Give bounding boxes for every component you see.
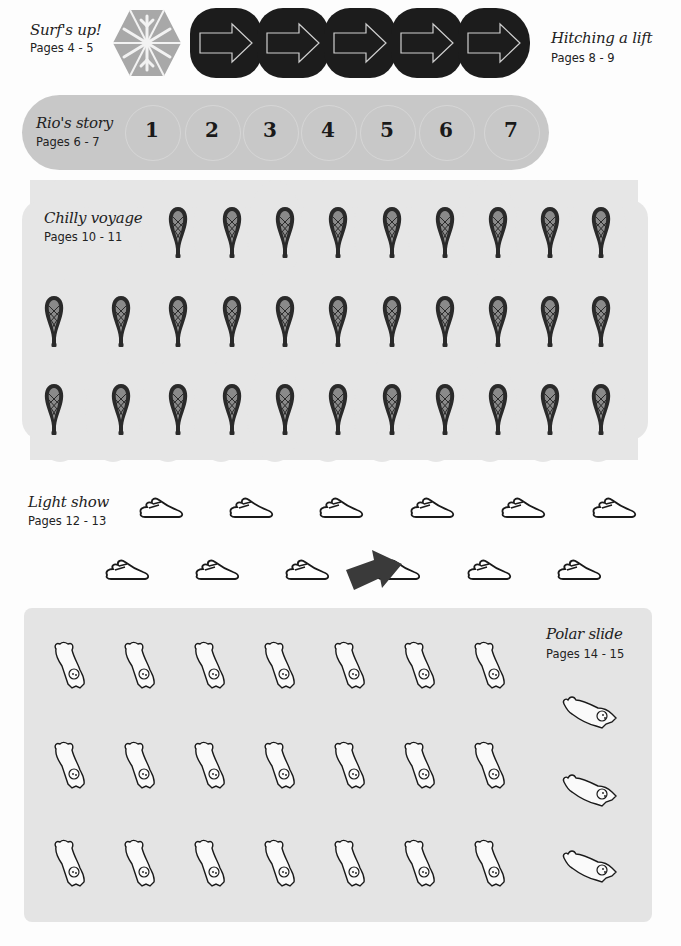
snowshoe-icon[interactable]: [434, 382, 456, 438]
footprint-icon[interactable]: [555, 557, 603, 581]
snowshoe-icon[interactable]: [43, 294, 65, 350]
surfs-up-pages: Pages 4 - 5: [30, 41, 94, 56]
polar-bear-icon[interactable]: [402, 640, 438, 692]
snowshoe-icon[interactable]: [539, 205, 561, 261]
rios-story-pages: Pages 6 - 7: [36, 135, 100, 150]
arrow-sticker[interactable]: [391, 8, 463, 78]
polar-bear-icon[interactable]: [402, 838, 438, 890]
snowshoe-icon[interactable]: [434, 205, 456, 261]
polar-bear-icon[interactable]: [192, 740, 228, 792]
polar-bear-icon[interactable]: [332, 740, 368, 792]
footprint-icon[interactable]: [408, 495, 456, 519]
snowshoe-icon[interactable]: [274, 205, 296, 261]
arrow-right-icon: [466, 22, 524, 64]
snowshoe-icon[interactable]: [167, 294, 189, 350]
light-show-title: Light show: [28, 494, 109, 511]
polar-bear-icon[interactable]: [262, 838, 298, 890]
polar-bear-icon[interactable]: [122, 838, 158, 890]
number-sticker-3[interactable]: 3: [250, 118, 290, 142]
footprint-icon[interactable]: [283, 557, 331, 581]
snowflake-sticker[interactable]: [110, 6, 184, 80]
snowshoe-icon[interactable]: [487, 294, 509, 350]
snowshoe-icon[interactable]: [327, 382, 349, 438]
polar-slide-title: Polar slide: [546, 626, 623, 643]
snowshoe-icon[interactable]: [167, 205, 189, 261]
snowshoe-icon[interactable]: [110, 294, 132, 350]
number-sticker-2[interactable]: 2: [192, 118, 232, 142]
arrow-right-icon: [399, 22, 457, 64]
snowshoe-icon[interactable]: [221, 294, 243, 350]
snowshoe-icon[interactable]: [221, 205, 243, 261]
arrow-right-icon: [198, 22, 256, 64]
rios-story-title: Rio's story: [36, 115, 113, 132]
snowshoe-icon[interactable]: [590, 205, 612, 261]
snowshoe-icon[interactable]: [110, 382, 132, 438]
footprint-icon[interactable]: [317, 495, 365, 519]
polar-bear-icon[interactable]: [472, 740, 508, 792]
polar-slide-pages: Pages 14 - 15: [546, 647, 624, 662]
polar-bear-icon[interactable]: [262, 740, 298, 792]
number-sticker-1[interactable]: 1: [132, 118, 172, 142]
polar-bear-sliding-icon[interactable]: [560, 846, 620, 886]
pointer-arrow-icon: [344, 548, 406, 594]
number-sticker-4[interactable]: 4: [308, 118, 348, 142]
light-show-pages: Pages 12 - 13: [28, 514, 106, 529]
snowshoe-icon[interactable]: [327, 205, 349, 261]
polar-bear-sliding-icon[interactable]: [560, 692, 620, 732]
number-sticker-5[interactable]: 5: [367, 118, 407, 142]
snowshoe-icon[interactable]: [434, 294, 456, 350]
polar-bear-icon[interactable]: [262, 640, 298, 692]
polar-bear-icon[interactable]: [402, 740, 438, 792]
snowshoe-icon[interactable]: [590, 382, 612, 438]
snowshoe-icon[interactable]: [43, 382, 65, 438]
arrow-right-icon: [332, 22, 390, 64]
arrow-right-icon: [265, 22, 323, 64]
footprint-icon[interactable]: [590, 495, 638, 519]
arrow-sticker[interactable]: [190, 8, 262, 78]
snowflake-icon: [110, 6, 184, 80]
snowshoe-icon[interactable]: [539, 294, 561, 350]
snowshoe-icon[interactable]: [539, 382, 561, 438]
snowshoe-icon[interactable]: [487, 382, 509, 438]
number-sticker-6[interactable]: 6: [426, 118, 466, 142]
polar-bear-icon[interactable]: [192, 640, 228, 692]
snowshoe-icon[interactable]: [590, 294, 612, 350]
snowshoe-icon[interactable]: [221, 382, 243, 438]
polar-bear-icon[interactable]: [52, 640, 88, 692]
polar-bear-icon[interactable]: [122, 640, 158, 692]
footprint-icon[interactable]: [103, 557, 151, 581]
polar-bear-icon[interactable]: [192, 838, 228, 890]
polar-bear-icon[interactable]: [332, 838, 368, 890]
arrow-sticker[interactable]: [257, 8, 329, 78]
snowshoe-icon[interactable]: [381, 205, 403, 261]
snowshoe-icon[interactable]: [381, 294, 403, 350]
snowshoe-icon[interactable]: [274, 382, 296, 438]
footprint-icon[interactable]: [193, 557, 241, 581]
polar-bear-icon[interactable]: [52, 838, 88, 890]
hitching-a-lift-title: Hitching a lift: [551, 30, 652, 47]
polar-bear-icon[interactable]: [122, 740, 158, 792]
chilly-voyage-title: Chilly voyage: [44, 210, 142, 227]
rios-story-strip: Rio's story Pages 6 - 7 1 2 3 4 5 6 7: [22, 95, 549, 170]
chilly-voyage-pages: Pages 10 - 11: [44, 230, 122, 245]
arrow-sticker[interactable]: [458, 8, 530, 78]
footprint-icon[interactable]: [465, 557, 513, 581]
surfs-up-title: Surf's up!: [30, 22, 102, 39]
polar-bear-icon[interactable]: [52, 740, 88, 792]
polar-bear-icon[interactable]: [332, 640, 368, 692]
number-sticker-7[interactable]: 7: [491, 118, 531, 142]
snowshoe-icon[interactable]: [327, 294, 349, 350]
footprint-icon[interactable]: [227, 495, 275, 519]
polar-bear-icon[interactable]: [472, 838, 508, 890]
polar-bear-icon[interactable]: [472, 640, 508, 692]
snowshoe-icon[interactable]: [274, 294, 296, 350]
snowshoe-icon[interactable]: [167, 382, 189, 438]
hitching-a-lift-pages: Pages 8 - 9: [551, 51, 615, 66]
footprint-icon[interactable]: [499, 495, 547, 519]
snowshoe-icon[interactable]: [487, 205, 509, 261]
arrow-sticker[interactable]: [324, 8, 396, 78]
footprint-icon[interactable]: [137, 495, 185, 519]
snowshoe-icon[interactable]: [381, 382, 403, 438]
polar-bear-sliding-icon[interactable]: [560, 770, 620, 810]
